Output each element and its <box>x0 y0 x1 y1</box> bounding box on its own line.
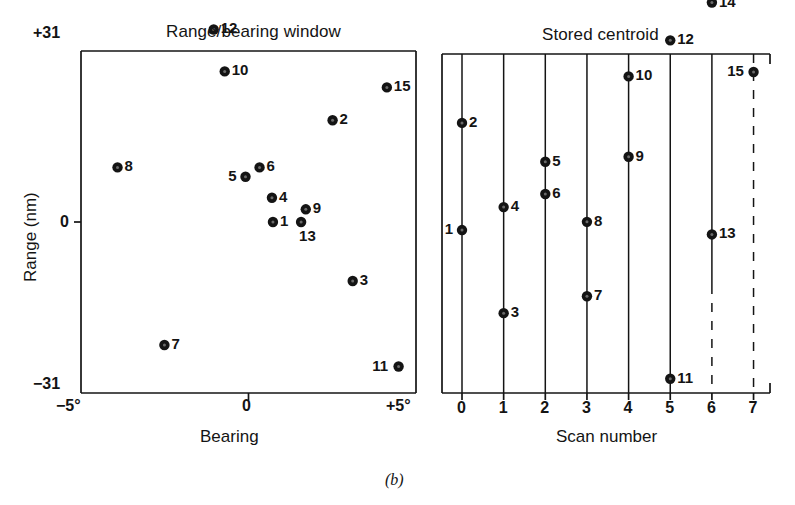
stored-centroid-point-1 <box>457 225 467 235</box>
left-y-tick-mid: 0 <box>60 214 69 230</box>
point-label-4: 4 <box>511 198 519 213</box>
point-label-14: 14 <box>719 0 736 9</box>
stored-centroid-point-2 <box>457 118 467 128</box>
figure-panel-b: Range/bearing window Range (nm) +31 0 −3… <box>0 0 795 505</box>
data-point-7 <box>159 340 169 350</box>
data-point-9 <box>301 204 311 214</box>
point-label-9: 9 <box>313 200 321 215</box>
data-point-2 <box>327 115 337 125</box>
left-x-tick-max: +5° <box>386 398 411 414</box>
point-label-6: 6 <box>267 158 275 173</box>
right-x-tick-0: 0 <box>457 400 466 416</box>
right-x-tick-6: 6 <box>707 400 716 416</box>
point-label-13: 13 <box>299 228 316 243</box>
left-y-tick-bottom: −31 <box>33 376 60 392</box>
point-label-11: 11 <box>677 370 693 385</box>
stored-centroid-point-4 <box>498 202 508 212</box>
stored-centroid-point-11 <box>665 374 675 384</box>
plot-canvas <box>0 0 795 505</box>
stored-centroid-point-15 <box>748 67 758 77</box>
point-label-1: 1 <box>445 221 453 236</box>
right-plot-gridlines <box>462 54 754 393</box>
left-plot-title: Range/bearing window <box>166 23 341 40</box>
stored-centroid-point-8 <box>582 217 592 227</box>
point-label-9: 9 <box>636 148 644 163</box>
data-point-8 <box>112 162 122 172</box>
point-label-8: 8 <box>125 158 133 173</box>
right-x-tick-5: 5 <box>665 400 674 416</box>
left-x-tick-zero: 0 <box>242 398 251 414</box>
data-point-1 <box>268 217 278 227</box>
right-plot-title: Stored centroid <box>542 26 659 43</box>
data-point-5 <box>240 172 250 182</box>
right-plot-x-axis-title: Scan number <box>556 428 657 445</box>
point-label-12: 12 <box>677 31 694 46</box>
stored-centroid-point-12 <box>665 35 675 45</box>
right-x-tick-4: 4 <box>624 400 633 416</box>
stored-centroid-point-10 <box>623 71 633 81</box>
data-point-6 <box>254 162 264 172</box>
point-label-13: 13 <box>719 225 736 240</box>
point-label-10: 10 <box>232 62 249 77</box>
left-plot-x-axis-title: Bearing <box>200 428 259 445</box>
data-point-15 <box>382 82 392 92</box>
point-label-5: 5 <box>552 153 560 168</box>
point-label-1: 1 <box>280 213 288 228</box>
stored-centroid-point-7 <box>582 291 592 301</box>
point-label-15: 15 <box>394 78 411 93</box>
left-plot-markers <box>112 0 403 372</box>
left-y-tick-top: +31 <box>33 25 60 41</box>
point-label-5: 5 <box>228 168 236 183</box>
left-x-tick-min: −5° <box>56 398 81 414</box>
stored-centroid-point-5 <box>540 157 550 167</box>
point-label-10: 10 <box>636 67 653 82</box>
point-label-2: 2 <box>469 114 477 129</box>
data-point-4 <box>267 193 277 203</box>
data-point-11 <box>393 361 403 371</box>
right-x-tick-3: 3 <box>582 400 591 416</box>
left-plot-ticks <box>74 222 249 400</box>
point-label-2: 2 <box>340 111 348 126</box>
figure-caption: (b) <box>385 472 404 488</box>
data-point-10 <box>220 66 230 76</box>
point-label-8: 8 <box>594 213 602 228</box>
point-label-6: 6 <box>552 185 560 200</box>
point-label-12: 12 <box>221 20 238 35</box>
left-plot-y-axis-title: Range (nm) <box>22 192 39 282</box>
right-x-tick-7: 7 <box>749 400 758 416</box>
point-label-3: 3 <box>511 304 519 319</box>
right-x-tick-2: 2 <box>540 400 549 416</box>
point-label-7: 7 <box>171 336 179 351</box>
stored-centroid-point-6 <box>540 189 550 199</box>
point-label-15: 15 <box>727 63 744 78</box>
stored-centroid-point-3 <box>498 308 508 318</box>
left-plot-frame <box>81 51 416 393</box>
right-x-tick-1: 1 <box>499 400 508 416</box>
stored-centroid-point-9 <box>623 152 633 162</box>
point-label-3: 3 <box>360 272 368 287</box>
point-label-11: 11 <box>372 358 388 373</box>
data-point-3 <box>347 276 357 286</box>
stored-centroid-point-13 <box>707 229 717 239</box>
stored-centroid-point-14 <box>707 0 717 8</box>
point-label-4: 4 <box>279 189 287 204</box>
data-point-13 <box>296 217 306 227</box>
point-label-7: 7 <box>594 287 602 302</box>
right-plot-markers <box>457 0 759 384</box>
